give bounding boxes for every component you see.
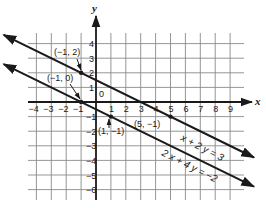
y-tick-label: 4 [89,39,94,49]
point-label-neg1-0: (−1, 0) [47,73,73,83]
x-tick-label: 8 [213,104,218,114]
x-tick-labels: −4−3−2−1123456789 [28,104,233,114]
x-tick-label: 6 [183,104,188,114]
y-tick-label: −5 [86,171,96,181]
pointer-arrow-neg1-2 [77,59,81,70]
x-tick-label: 5 [169,104,174,114]
x-tick-label: 1 [109,104,114,114]
point-label-neg1-2: (−1, 2) [54,47,80,57]
x-axis-label: x [254,95,261,107]
point-label-5-neg1: (5, −1) [134,119,160,129]
point-1-neg1 [109,114,113,118]
y-tick-label: −2 [86,127,96,137]
line-x-plus-2y-eq-3 [4,35,254,158]
x-tick-label: 9 [228,104,233,114]
x-tick-label: −4 [28,104,38,114]
point-neg1-2 [79,71,83,75]
x-tick-label: −2 [58,104,68,114]
y-tick-label: −3 [86,141,96,151]
y-tick-label: −1 [86,112,96,122]
origin-label: 0 [99,89,104,99]
y-tick-label: 1 [89,83,94,93]
y-tick-label: 3 [89,54,94,64]
x-tick-label: 3 [139,104,144,114]
y-tick-label: −4 [86,156,96,166]
point-neg1-0 [79,100,83,104]
x-tick-label: 2 [124,104,129,114]
point-5-neg1 [168,114,172,118]
y-tick-label: −6 [86,185,96,195]
x-tick-label: −3 [43,104,53,114]
point-label-1-neg1: (1, −1) [98,126,124,136]
coordinate-plane: x y 0 −4−3−2−1123456789 4321−1−2−3−4−5−6… [0,0,266,208]
line-2x-plus-4y-eq-neg2 [4,64,254,187]
y-tick-labels: 4321−1−2−3−4−5−6 [86,39,96,195]
x-tick-label: −1 [73,104,83,114]
x-tick-label: 7 [198,104,203,114]
y-axis-label: y [90,2,97,14]
